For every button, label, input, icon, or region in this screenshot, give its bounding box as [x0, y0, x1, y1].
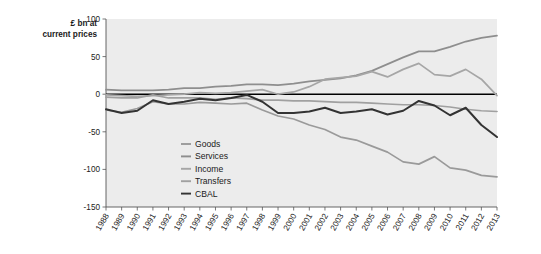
legend-label-income: Income — [195, 164, 223, 174]
y-tick-label: -50 — [88, 128, 100, 137]
y-axis-label-line1: £ bn at — [71, 19, 98, 28]
y-tick-label: 0 — [95, 90, 100, 99]
legend-label-transfers: Transfers — [195, 176, 231, 186]
line-chart: 100500-50-100-150 1988198919901991199219… — [0, 0, 541, 254]
y-axis-label-line2: current prices — [42, 30, 97, 39]
legend-label-services: Services — [195, 151, 228, 161]
legend-label-goods: Goods — [195, 139, 220, 149]
chart-figure: 100500-50-100-150 1988198919901991199219… — [0, 0, 541, 254]
y-tick-label: -100 — [84, 165, 101, 174]
legend-label-cbal: CBAL — [195, 189, 218, 199]
y-tick-label: -150 — [84, 203, 101, 212]
y-tick-label: 50 — [91, 53, 101, 62]
